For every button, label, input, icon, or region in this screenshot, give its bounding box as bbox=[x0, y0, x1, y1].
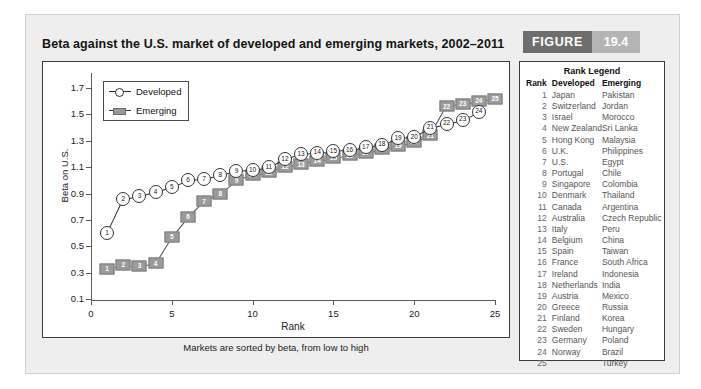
cell-emerging: Argentina bbox=[602, 202, 662, 213]
table-row: 9SingaporeColombia bbox=[526, 179, 661, 190]
y-axis-tick-label: 1.7 bbox=[44, 82, 84, 93]
cell-developed: Germany bbox=[552, 335, 602, 346]
cell-developed: U.S. bbox=[552, 157, 602, 168]
cell-emerging: Thailand bbox=[602, 190, 662, 201]
page-title: Beta against the U.S. market of develope… bbox=[42, 37, 504, 51]
y-axis-tick-label: 1.3 bbox=[44, 135, 84, 146]
cell-developed: Netherlands bbox=[552, 280, 602, 291]
cell-rank: 18 bbox=[526, 280, 552, 291]
y-axis-tick bbox=[86, 88, 92, 89]
cell-developed: Singapore bbox=[552, 179, 602, 190]
cell-rank: 23 bbox=[526, 335, 552, 346]
cell-rank: 5 bbox=[526, 135, 552, 146]
rank-legend-table: Rank Developed Emerging 1JapanPakistan2S… bbox=[526, 78, 661, 369]
cell-developed: Japan bbox=[552, 90, 602, 101]
cell-developed: Israel bbox=[552, 112, 602, 123]
data-point-developed: 5 bbox=[165, 180, 179, 194]
chart-plot-area: Beta on U.S. Rank 0.10.30.50.70.91.11.31… bbox=[42, 61, 510, 338]
cell-emerging: South Africa bbox=[602, 257, 662, 268]
cell-emerging: Malaysia bbox=[602, 135, 662, 146]
cell-rank: 24 bbox=[526, 347, 552, 358]
table-row: 16FranceSouth Africa bbox=[526, 257, 661, 268]
table-row: 6U.K.Philippines bbox=[526, 146, 661, 157]
cell-rank: 9 bbox=[526, 179, 552, 190]
rank-legend-body: 1JapanPakistan2SwitzerlandJordan3IsraelM… bbox=[526, 90, 661, 369]
cell-developed: Portugal bbox=[552, 168, 602, 179]
cell-developed: Denmark bbox=[552, 190, 602, 201]
cell-rank: 3 bbox=[526, 112, 552, 123]
y-axis-tick bbox=[86, 273, 92, 274]
cell-developed: Finland bbox=[552, 313, 602, 324]
data-point-developed: 19 bbox=[391, 131, 405, 145]
table-row: 19AustriaMexico bbox=[526, 291, 661, 302]
legend-entry-developed: Developed bbox=[109, 86, 183, 97]
y-axis-tick bbox=[86, 194, 92, 195]
y-axis-tick-label: 0.9 bbox=[44, 188, 84, 199]
figure-badge-number: 19.4 bbox=[592, 31, 640, 53]
data-point-developed: 12 bbox=[278, 152, 292, 166]
data-point-developed: 17 bbox=[359, 140, 373, 154]
rank-legend-title: Rank Legend bbox=[526, 66, 658, 76]
figure-panel: Beta against the U.S. market of develope… bbox=[25, 14, 680, 374]
cell-rank: 11 bbox=[526, 202, 552, 213]
cell-emerging: Mexico bbox=[602, 291, 662, 302]
data-point-developed: 23 bbox=[456, 113, 470, 127]
table-row: 4New ZealandSri Lanka bbox=[526, 123, 661, 134]
data-point-developed: 15 bbox=[326, 144, 340, 158]
cell-emerging: Pakistan bbox=[602, 90, 662, 101]
cell-emerging: Hungary bbox=[602, 324, 662, 335]
x-axis-tick bbox=[253, 300, 254, 305]
cell-rank: 20 bbox=[526, 302, 552, 313]
cell-developed: Hong Kong bbox=[552, 135, 602, 146]
open-circle-marker-icon bbox=[109, 87, 131, 96]
data-point-developed: 11 bbox=[262, 160, 276, 174]
cell-developed: France bbox=[552, 257, 602, 268]
x-axis-tick-label: 20 bbox=[409, 308, 420, 319]
table-row: 8PortugalChile bbox=[526, 168, 661, 179]
cell-rank: 10 bbox=[526, 190, 552, 201]
data-point-developed: 16 bbox=[343, 143, 357, 157]
chart-note: Markets are sorted by beta, from low to … bbox=[42, 342, 510, 353]
cell-developed: Australia bbox=[552, 213, 602, 224]
figure-badge-label: FIGURE bbox=[523, 31, 592, 53]
data-point-emerging: 22 bbox=[439, 101, 454, 112]
x-axis-tick-label: 15 bbox=[328, 308, 339, 319]
table-row: 17IrelandIndonesia bbox=[526, 269, 661, 280]
rank-legend-box: Rank Legend Rank Developed Emerging 1Jap… bbox=[519, 61, 665, 361]
cell-developed: Switzerland bbox=[552, 101, 602, 112]
table-row: 14BelgiumChina bbox=[526, 235, 661, 246]
y-axis-tick-label: 0.7 bbox=[44, 214, 84, 225]
x-axis-line bbox=[91, 300, 495, 301]
cell-emerging: Korea bbox=[602, 313, 662, 324]
data-point-developed: 7 bbox=[197, 172, 211, 186]
table-row: 18NetherlandsIndia bbox=[526, 280, 661, 291]
cell-emerging: Brazil bbox=[602, 347, 662, 358]
cell-emerging: Taiwan bbox=[602, 246, 662, 257]
y-axis-tick-label: 1.5 bbox=[44, 108, 84, 119]
cell-emerging: Sri Lanka bbox=[602, 123, 662, 134]
y-axis-tick-label: 0.1 bbox=[44, 293, 84, 304]
cell-developed: U.K. bbox=[552, 146, 602, 157]
y-axis-line bbox=[91, 73, 92, 300]
y-axis-tick-label: 1.1 bbox=[44, 161, 84, 172]
table-row: 12AustraliaCzech Republic bbox=[526, 213, 661, 224]
cell-emerging: Chile bbox=[602, 168, 662, 179]
cell-rank: 17 bbox=[526, 269, 552, 280]
data-point-developed: 14 bbox=[310, 146, 324, 160]
y-axis-tick bbox=[86, 167, 92, 168]
data-point-emerging: 6 bbox=[180, 212, 195, 223]
data-point-developed: 3 bbox=[132, 189, 146, 203]
column-header-rank: Rank bbox=[526, 78, 552, 90]
x-axis-tick bbox=[91, 300, 92, 305]
column-header-emerging: Emerging bbox=[602, 78, 662, 90]
cell-rank: 14 bbox=[526, 235, 552, 246]
data-point-emerging: 25 bbox=[488, 93, 503, 104]
data-point-developed: 10 bbox=[246, 163, 260, 177]
y-axis-tick bbox=[86, 246, 92, 247]
table-header-row: Rank Developed Emerging bbox=[526, 78, 661, 90]
table-row: 11CanadaArgentina bbox=[526, 202, 661, 213]
table-row: 25Turkey bbox=[526, 358, 661, 369]
cell-emerging: Poland bbox=[602, 335, 662, 346]
x-axis-tick bbox=[172, 300, 173, 305]
column-header-developed: Developed bbox=[552, 78, 602, 90]
